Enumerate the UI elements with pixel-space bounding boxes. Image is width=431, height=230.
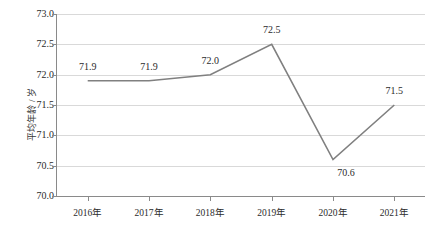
- x-tick-label: 2018年: [196, 205, 225, 219]
- data-label: 70.6: [337, 168, 355, 178]
- x-tick-label: 2016年: [73, 205, 102, 219]
- data-label: 71.5: [386, 86, 404, 96]
- x-tick-label: 2019年: [257, 205, 286, 219]
- series-layer: [0, 0, 431, 230]
- x-tick-label: 2017年: [135, 205, 164, 219]
- x-tick-label: 2021年: [380, 205, 409, 219]
- data-label: 72.0: [202, 56, 220, 66]
- series-line-average-age: [88, 44, 395, 159]
- data-label: 71.9: [79, 62, 97, 72]
- data-label: 71.9: [140, 62, 158, 72]
- line-chart: 平均年龄 / 岁 73.0 72.5 72.0 71.5 71.0 70.5 7…: [0, 0, 431, 230]
- x-tick-label: 2020年: [319, 205, 348, 219]
- data-label: 72.5: [263, 25, 281, 35]
